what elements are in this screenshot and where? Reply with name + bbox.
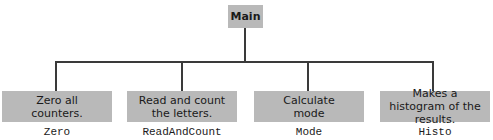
module-box-zero: Zero all counters.	[2, 91, 112, 122]
module-box-histo: Makes a histogram of the results.	[380, 91, 490, 122]
module-description: Read and count the letters.	[134, 94, 230, 120]
child-connector-3	[307, 61, 309, 91]
child-connector-1	[55, 61, 57, 91]
module-name-mode: Mode	[254, 126, 364, 138]
horizontal-connector	[55, 61, 434, 63]
module-box-readandcount: Read and count the letters.	[127, 91, 237, 122]
child-connector-2	[181, 61, 183, 91]
module-name-readandcount: ReadAndCount	[127, 126, 237, 138]
root-module-label: Main	[231, 10, 261, 23]
module-name-histo: Histo	[380, 126, 490, 138]
root-module-main: Main	[228, 5, 263, 28]
root-connector	[244, 28, 246, 62]
module-description: Makes a histogram of the results.	[383, 87, 487, 126]
module-name-zero: Zero	[2, 126, 112, 138]
module-description: Calculate mode	[279, 94, 339, 120]
module-box-mode: Calculate mode	[254, 91, 364, 122]
module-description: Zero all counters.	[25, 94, 89, 120]
